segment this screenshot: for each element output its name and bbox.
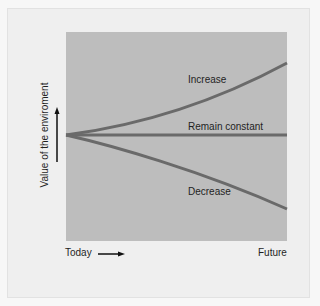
y-axis-label: Value of the enviroment <box>39 83 50 188</box>
x-label-future: Future <box>258 247 287 258</box>
x-label-today: Today <box>65 247 92 258</box>
label-remain-constant: Remain constant <box>188 121 263 132</box>
label-increase: Increase <box>188 74 226 85</box>
label-decrease: Decrease <box>188 186 231 197</box>
x-axis-arrowhead-icon <box>118 252 125 257</box>
y-axis-arrowhead-icon <box>55 107 60 114</box>
decrease-line <box>66 135 287 209</box>
